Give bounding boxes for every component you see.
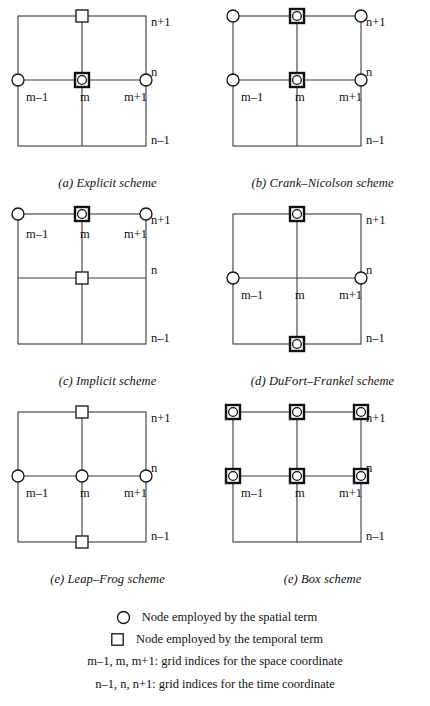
time-index-label-n+1: n+1 xyxy=(151,15,171,29)
node-marker-circle xyxy=(227,74,239,86)
legend-space-index: m–1, m, m+1: grid indices for the space … xyxy=(0,650,430,673)
panel-b: n–1nn+1m–1mm+1(b) Crank–Nicolson scheme xyxy=(215,0,430,198)
time-index-label-n: n xyxy=(151,461,158,475)
time-index-label-n: n xyxy=(151,263,158,277)
node-marker-circle xyxy=(355,74,367,86)
node-marker-circle xyxy=(140,74,152,86)
time-index-label-n: n xyxy=(366,65,373,79)
panel-a-caption: (a) Explicit scheme xyxy=(0,176,215,191)
panel-f-diagram: n–1nn+1m–1mm+1 xyxy=(215,396,430,576)
node-marker-circle xyxy=(76,470,88,482)
node-marker-circle xyxy=(229,408,238,417)
panel-c: n–1nn+1m–1mm+1(c) Implicit scheme xyxy=(0,198,215,396)
node-marker-circle xyxy=(293,408,302,417)
node-marker-square xyxy=(76,536,88,548)
time-index-label-n-1: n–1 xyxy=(366,529,385,543)
panel-a: n–1nn+1m–1mm+1(a) Explicit scheme xyxy=(0,0,215,198)
node-marker-circle xyxy=(12,74,24,86)
node-marker-circle xyxy=(293,472,302,481)
legend-temporal-label: Node employed by the temporal term xyxy=(136,632,323,647)
node-marker-square xyxy=(76,10,88,22)
panel-d-caption: (d) DuFort–Frankel scheme xyxy=(215,374,430,389)
time-index-label-n+1: n+1 xyxy=(151,411,171,425)
time-index-label-n-1: n–1 xyxy=(366,331,385,345)
node-marker-circle xyxy=(357,408,366,417)
space-index-label-m-1: m–1 xyxy=(26,227,48,241)
legend-row-temporal: Node employed by the temporal term xyxy=(0,628,430,650)
node-marker-circle xyxy=(293,340,302,349)
node-marker-circle xyxy=(227,10,239,22)
node-marker-circle xyxy=(140,208,152,220)
panel-c-caption: (c) Implicit scheme xyxy=(0,374,215,389)
panel-a-diagram: n–1nn+1m–1mm+1 xyxy=(0,0,215,180)
space-index-label-m-1: m–1 xyxy=(241,90,263,104)
space-index-label-m+1: m+1 xyxy=(339,288,362,302)
space-index-label-m-1: m–1 xyxy=(241,486,263,500)
node-marker-square xyxy=(76,272,88,284)
time-index-label-n-1: n–1 xyxy=(366,133,385,147)
time-index-label-n+1: n+1 xyxy=(366,15,386,29)
panel-d: n–1nn+1m–1mm+1(d) DuFort–Frankel scheme xyxy=(215,198,430,396)
node-marker-circle xyxy=(78,76,87,85)
figure-computational-molecules: n–1nn+1m–1mm+1(a) Explicit schemen–1nn+1… xyxy=(0,0,430,706)
space-index-label-m-1: m–1 xyxy=(241,288,263,302)
panel-b-diagram: n–1nn+1m–1mm+1 xyxy=(215,0,430,180)
figure-legend: Node employed by the spatial term Node e… xyxy=(0,606,430,696)
panel-c-diagram: n–1nn+1m–1mm+1 xyxy=(0,198,215,378)
legend-spatial-label: Node employed by the spatial term xyxy=(142,610,317,625)
space-index-label-m: m xyxy=(80,227,90,241)
legend-time-index: n–1, n, n+1: grid indices for the time c… xyxy=(0,673,430,696)
node-marker-circle xyxy=(293,210,302,219)
node-marker-circle xyxy=(78,210,87,219)
square-icon xyxy=(107,631,129,647)
time-index-label-n+1: n+1 xyxy=(366,213,386,227)
panel-f: n–1nn+1m–1mm+1(e) Box scheme xyxy=(215,396,430,594)
panel-e: n–1nn+1m–1mm+1(e) Leap–Frog scheme xyxy=(0,396,215,594)
space-index-label-m: m xyxy=(295,90,305,104)
node-marker-circle xyxy=(229,472,238,481)
space-index-label-m+1: m+1 xyxy=(124,90,147,104)
time-index-label-n-1: n–1 xyxy=(151,529,170,543)
space-index-label-m: m xyxy=(295,288,305,302)
node-marker-circle xyxy=(12,470,24,482)
node-marker-square xyxy=(76,406,88,418)
panel-f-caption: (e) Box scheme xyxy=(215,572,430,587)
panel-e-caption: (e) Leap–Frog scheme xyxy=(0,572,215,587)
panel-d-diagram: n–1nn+1m–1mm+1 xyxy=(215,198,430,378)
legend-row-spatial: Node employed by the spatial term xyxy=(0,606,430,628)
time-index-label-n: n xyxy=(151,65,158,79)
space-index-label-m: m xyxy=(295,486,305,500)
panel-e-diagram: n–1nn+1m–1mm+1 xyxy=(0,396,215,576)
panel-b-caption: (b) Crank–Nicolson scheme xyxy=(215,176,430,191)
node-marker-circle xyxy=(140,470,152,482)
time-index-label-n-1: n–1 xyxy=(151,133,170,147)
node-marker-circle xyxy=(293,76,302,85)
node-marker-circle xyxy=(355,272,367,284)
space-index-label-m-1: m–1 xyxy=(26,486,48,500)
node-marker-circle xyxy=(227,272,239,284)
node-marker-circle xyxy=(12,208,24,220)
circle-icon xyxy=(113,609,135,625)
space-index-label-m: m xyxy=(80,486,90,500)
space-index-label-m+1: m+1 xyxy=(339,90,362,104)
time-index-label-n-1: n–1 xyxy=(151,331,170,345)
node-marker-circle xyxy=(357,472,366,481)
space-index-label-m+1: m+1 xyxy=(339,486,362,500)
node-marker-circle xyxy=(293,12,302,21)
space-index-label-m-1: m–1 xyxy=(26,90,48,104)
node-marker-circle xyxy=(355,10,367,22)
space-index-label-m: m xyxy=(80,90,90,104)
space-index-label-m+1: m+1 xyxy=(124,227,147,241)
time-index-label-n+1: n+1 xyxy=(151,213,171,227)
time-index-label-n: n xyxy=(366,263,373,277)
space-index-label-m+1: m+1 xyxy=(124,486,147,500)
